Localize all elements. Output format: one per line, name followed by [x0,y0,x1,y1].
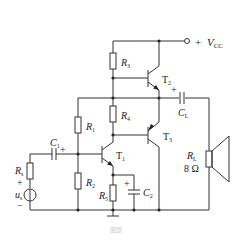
svg-text:−: − [17,200,23,211]
ground-rail [30,208,209,216]
vcc-rail: + VCC [113,36,223,50]
resistor-r4: R4 [110,98,130,137]
svg-text:CL: CL [178,107,189,119]
vcc-label: + VCC [195,36,223,50]
signal-source: + us − [15,177,36,211]
capacitor-cl: + CL [171,84,189,119]
output-node-line [78,96,209,99]
svg-text:+: + [124,178,130,189]
resistor-r5: R5 [98,175,116,210]
resistor-r3: R3 [110,41,130,98]
svg-text:+: + [60,144,66,155]
load-speaker: RL 8 Ω [184,98,229,210]
svg-text:R5: R5 [98,190,108,202]
svg-text:T2: T2 [162,74,171,86]
svg-text:R2: R2 [85,177,95,189]
svg-text:R1: R1 [85,121,95,133]
svg-text:C1: C1 [50,137,60,149]
svg-text:C2: C2 [143,187,153,199]
figure-caption: 图题 [110,227,122,234]
svg-text:8 Ω: 8 Ω [184,163,199,174]
svg-text:T1: T1 [116,150,125,162]
svg-text:+: + [171,84,177,95]
resistor-r2: R2 [75,173,95,189]
svg-text:R4: R4 [120,110,130,122]
svg-text:+: + [17,177,23,188]
circuit-schematic: + VCC R3 T2 + CL RL [0,0,244,242]
svg-text:R3: R3 [120,57,130,69]
vcc-terminal [185,39,190,44]
svg-text:RL: RL [186,150,197,162]
svg-text:T3: T3 [163,131,172,143]
capacitor-c1: C1 + [30,137,78,160]
capacitor-c2: + C2 [113,175,153,210]
transistor-t1: T1 [78,135,125,177]
svg-text:Rs: Rs [14,165,24,177]
transistor-t2: T2 [113,41,171,98]
